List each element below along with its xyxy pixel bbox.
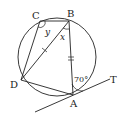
segment-CD [21,21,40,80]
label-A: A [69,98,78,109]
label-T: T [110,74,117,85]
circle [18,18,96,96]
angle-label-70: 70° [74,75,88,84]
label-C: C [32,10,40,21]
label-D: D [10,79,18,90]
segment-BA [69,21,73,95]
angle-label-y: y [44,27,51,37]
angle-arc-x [63,28,69,29]
angle-label-x: x [60,32,65,42]
label-B: B [67,8,74,19]
geometry-diagram: C B D A T y x 70° [0,0,130,125]
segment-DA [21,80,73,95]
